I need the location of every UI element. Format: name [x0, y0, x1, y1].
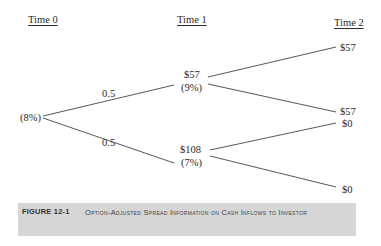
figure-title: Option-Adjusted Spread Information on Ca… [85, 207, 350, 219]
node-downdown-value: $0 [342, 184, 353, 196]
branch-up-up [208, 47, 336, 77]
branch-up-down [208, 84, 336, 112]
header-time-2: Time 2 [334, 17, 364, 29]
header-time-0: Time 0 [28, 14, 58, 26]
node-downup-value: $0 [342, 118, 353, 130]
header-time-1: Time 1 [177, 14, 207, 26]
node-up-rate: (9%) [181, 82, 202, 94]
node-upup-value: $57 [340, 42, 356, 54]
branch-down-up [210, 123, 336, 150]
node-up-value: $57 [184, 69, 200, 81]
figure-caption: FIGURE 12-1 Option-Adjusted Spread Infor… [18, 203, 356, 236]
prob-down: 0.5 [102, 137, 115, 149]
node-down-value: $108 [180, 144, 201, 156]
figure-label: FIGURE 12-1 [22, 207, 70, 216]
prob-up: 0.5 [102, 88, 115, 100]
node-down-rate: (7%) [181, 157, 202, 169]
root-rate: (8%) [20, 112, 41, 124]
branch-down-down [210, 156, 336, 187]
node-updown-value: $57 [340, 106, 356, 118]
